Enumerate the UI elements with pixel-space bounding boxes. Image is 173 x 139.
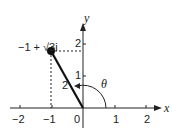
modulus-label: 2 xyxy=(62,80,68,91)
x-axis-label: x xyxy=(164,102,169,114)
x-tick-label: 0 xyxy=(74,114,80,125)
y-tick-label: 1 xyxy=(75,70,81,81)
y-axis-label: y xyxy=(84,12,89,24)
x-axis-arrow-icon xyxy=(154,105,162,111)
angle-arrow-icon xyxy=(74,83,80,89)
x-tick-label: 1 xyxy=(113,114,119,125)
point-label: −1 + √3i xyxy=(18,42,58,53)
x-tick-label: −2 xyxy=(12,114,25,125)
complex-plane-diagram: −1 + √3i 2 θ y x −2 −1 0 1 2 1 2 xyxy=(0,0,173,139)
y-tick-label: 2 xyxy=(75,38,81,49)
angle-label: θ xyxy=(101,78,107,90)
x-tick-label: 2 xyxy=(144,114,150,125)
x-tick-label: −1 xyxy=(43,114,56,125)
